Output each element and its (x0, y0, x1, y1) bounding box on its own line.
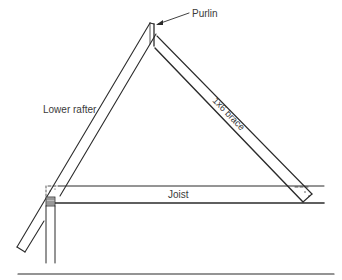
lower-rafter-label: Lower rafter (43, 104, 97, 115)
purlin-leader-arrow (156, 13, 189, 25)
wall-post (46, 186, 56, 263)
purlin-label: Purlin (192, 8, 218, 19)
joist-label: Joist (168, 189, 189, 200)
brace-label: 1x6 brace (211, 95, 248, 133)
framing-diagram: Purlin Lower rafter 1x6 brace Joist (0, 0, 342, 280)
lower-rafter (17, 23, 156, 252)
